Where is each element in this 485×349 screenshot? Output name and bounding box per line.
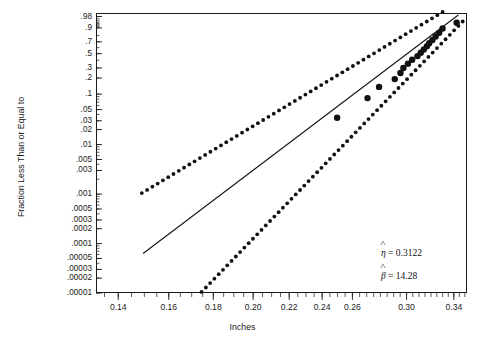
eta-hat-symbol: η	[381, 248, 386, 258]
x-axis-tick-label: 0.24	[314, 303, 331, 312]
eta-equation-tail: =	[388, 248, 396, 258]
y-axis-tick-label: .00002	[6, 274, 92, 282]
beta-value: 14.28	[396, 271, 417, 281]
y-axis-tick-label: .9	[6, 24, 92, 32]
eta-estimate-annotation: η = 0.3122	[381, 248, 422, 258]
y-axis-tick-label: .98	[6, 12, 92, 20]
y-axis-tick-label: .00001	[6, 289, 92, 297]
x-axis-tick-label: 0.14	[110, 303, 127, 312]
x-axis-title: Inches	[0, 322, 485, 332]
x-axis-tick-label: 0.34	[446, 303, 463, 312]
y-axis-tick-labels: .98.9.7.5.3.2.1.05.03.02.01.005.003.001.…	[0, 0, 92, 349]
beta-equation-tail: =	[388, 271, 396, 281]
x-axis-tick-label: 0.26	[344, 303, 361, 312]
y-axis-title: Fraction Less Than or Equal to	[16, 57, 26, 257]
x-axis-tick-label: 0.22	[281, 303, 298, 312]
x-axis-tick-label: 0.18	[205, 303, 222, 312]
y-axis-tick-label: .7	[6, 38, 92, 46]
eta-value: 0.3122	[396, 248, 422, 258]
beta-estimate-annotation: β = 14.28	[381, 271, 417, 281]
x-axis-tick-label: 0.20	[245, 303, 262, 312]
x-axis-tick-label: 0.30	[398, 303, 415, 312]
beta-hat-symbol: β	[381, 271, 386, 281]
weibull-probability-plot: .98.9.7.5.3.2.1.05.03.02.01.005.003.001.…	[0, 0, 485, 349]
x-axis-tick-label: 0.16	[160, 303, 177, 312]
